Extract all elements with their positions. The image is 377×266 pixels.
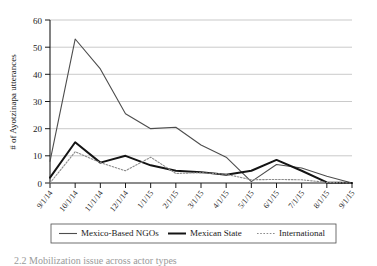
legend-label: Mexico-Based NGOs bbox=[81, 228, 159, 238]
y-tick-labels: 60 50 40 30 20 10 0 bbox=[33, 16, 43, 189]
y-tick-label: 30 bbox=[33, 97, 43, 107]
x-tick-label: 7/1/15 bbox=[287, 189, 307, 211]
y-tick-marks bbox=[45, 20, 50, 183]
legend-label: International bbox=[279, 228, 325, 238]
x-tick-label: 11/1/14 bbox=[83, 189, 105, 214]
x-tick-label: 8/1/15 bbox=[312, 189, 332, 211]
series-line-mexico-based-ngos bbox=[50, 39, 352, 183]
gridlines bbox=[50, 20, 352, 156]
x-tick-label: 12/1/14 bbox=[108, 189, 130, 214]
series-line-international bbox=[50, 152, 352, 183]
x-tick-label: 6/1/15 bbox=[261, 189, 281, 211]
x-tick-label: 5/1/15 bbox=[236, 189, 256, 211]
figure-caption: 2.2 Mobilization issue across actor type… bbox=[14, 255, 177, 266]
y-axis-title: # of Ayotzinapa utterances bbox=[8, 54, 18, 150]
x-tick-labels: 9/1/1410/1/1411/1/1412/1/141/1/152/1/153… bbox=[35, 189, 357, 214]
y-tick-label: 40 bbox=[33, 70, 43, 80]
x-tick-label: 9/1/15 bbox=[337, 189, 357, 211]
x-tick-label: 1/1/15 bbox=[136, 189, 156, 211]
y-tick-label: 0 bbox=[38, 179, 43, 189]
x-tick-label: 4/1/15 bbox=[211, 189, 231, 211]
x-tick-label: 9/1/14 bbox=[35, 189, 55, 211]
y-tick-label: 60 bbox=[33, 16, 43, 26]
x-tick-label: 3/1/15 bbox=[186, 189, 206, 211]
y-tick-label: 20 bbox=[33, 124, 43, 134]
series-line-mexican-state bbox=[50, 142, 352, 183]
x-tick-label: 2/1/15 bbox=[161, 189, 181, 211]
legend-label: Mexican State bbox=[190, 228, 242, 238]
y-tick-label: 50 bbox=[33, 43, 43, 53]
x-tick-label: 10/1/14 bbox=[58, 189, 80, 214]
y-tick-label: 10 bbox=[33, 151, 43, 161]
series-lines bbox=[50, 39, 352, 183]
x-tick-marks bbox=[50, 183, 352, 188]
